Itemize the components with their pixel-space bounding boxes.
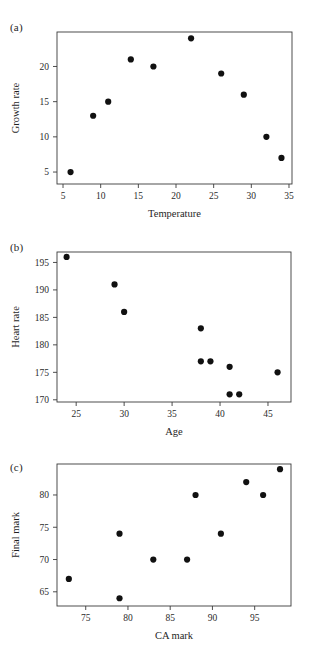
plot-frame [57, 464, 291, 606]
y-tick-label: 10 [40, 132, 50, 142]
plot-frame [57, 32, 292, 184]
x-axis-title: Age [165, 426, 183, 437]
data-point [111, 281, 117, 287]
y-tick-label: 185 [35, 313, 50, 323]
data-point [105, 99, 111, 105]
data-point [188, 35, 194, 41]
panel-a: (a) 51015202530355101520TemperatureGrowt… [0, 0, 309, 220]
x-tick-label: 85 [165, 613, 175, 623]
x-tick-label: 95 [250, 613, 260, 623]
plot-frame [57, 252, 291, 402]
panel-c: (c) 758085909565707580CA markFinal mark [0, 440, 309, 660]
data-point [121, 309, 127, 315]
data-point [218, 70, 224, 76]
x-tick-label: 30 [247, 191, 257, 201]
data-point [116, 595, 122, 601]
y-tick-label: 65 [40, 587, 50, 597]
data-point [263, 134, 269, 140]
x-tick-label: 45 [263, 409, 273, 419]
y-tick-label: 175 [35, 368, 50, 378]
x-tick-label: 25 [71, 409, 81, 419]
y-tick-label: 180 [35, 340, 50, 350]
panel-b-plot: 2530354045170175180185190195AgeHeart rat… [0, 220, 309, 440]
x-tick-label: 80 [123, 613, 133, 623]
data-point [274, 369, 280, 375]
data-point [227, 391, 233, 397]
y-axis-title: Heart rate [10, 306, 21, 348]
data-point [63, 254, 69, 260]
data-point [198, 358, 204, 364]
y-tick-label: 5 [44, 167, 49, 177]
y-tick-label: 80 [40, 490, 50, 500]
data-point [116, 531, 122, 537]
y-tick-label: 15 [40, 97, 50, 107]
data-point [207, 358, 213, 364]
data-point [184, 556, 190, 562]
panel-a-plot: 51015202530355101520TemperatureGrowth ra… [0, 0, 309, 220]
x-tick-label: 20 [171, 191, 181, 201]
data-point [218, 531, 224, 537]
data-point [67, 169, 73, 175]
data-point [241, 92, 247, 98]
x-axis-title: CA mark [155, 630, 194, 641]
x-tick-label: 35 [284, 191, 294, 201]
panel-b: (b) 2530354045170175180185190195AgeHeart… [0, 220, 309, 440]
y-axis-title: Final mark [10, 511, 21, 558]
y-tick-label: 170 [35, 395, 50, 405]
x-tick-label: 10 [96, 191, 106, 201]
x-tick-label: 75 [81, 613, 91, 623]
data-point [243, 479, 249, 485]
data-point [150, 556, 156, 562]
data-point [66, 576, 72, 582]
y-axis-title: Growth rate [10, 82, 21, 133]
x-tick-label: 25 [209, 191, 219, 201]
data-point [150, 63, 156, 69]
x-tick-label: 90 [208, 613, 218, 623]
data-point [236, 391, 242, 397]
y-tick-label: 20 [40, 62, 50, 72]
data-point [278, 155, 284, 161]
x-tick-label: 30 [119, 409, 129, 419]
data-point [192, 492, 198, 498]
y-tick-label: 70 [40, 555, 50, 565]
y-tick-label: 190 [35, 285, 50, 295]
y-tick-label: 75 [40, 523, 50, 533]
x-tick-label: 35 [167, 409, 177, 419]
scatter-plot-figure: (a) 51015202530355101520TemperatureGrowt… [0, 0, 309, 660]
data-point [90, 113, 96, 119]
data-point [227, 364, 233, 370]
x-tick-label: 40 [215, 409, 225, 419]
data-point [260, 492, 266, 498]
x-tick-label: 5 [61, 191, 66, 201]
data-point [128, 56, 134, 62]
data-point [198, 325, 204, 331]
y-tick-label: 195 [35, 258, 50, 268]
x-axis-title: Temperature [148, 208, 201, 219]
data-point [277, 466, 283, 472]
x-tick-label: 15 [134, 191, 144, 201]
panel-c-plot: 758085909565707580CA markFinal mark [0, 440, 309, 660]
